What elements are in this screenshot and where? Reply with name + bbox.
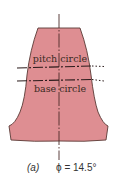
pitch-circle-label: pitch circle bbox=[33, 53, 88, 64]
base-circle-line-ext bbox=[92, 80, 104, 82]
pitch-circle-line-ext bbox=[92, 66, 104, 67]
pressure-angle-equation: ϕ = 14.5° bbox=[56, 162, 96, 173]
gear-tooth-diagram: pitch circle base circle bbox=[0, 0, 117, 182]
base-circle-label: base circle bbox=[34, 83, 87, 94]
caption-tag: (a) bbox=[27, 162, 39, 173]
